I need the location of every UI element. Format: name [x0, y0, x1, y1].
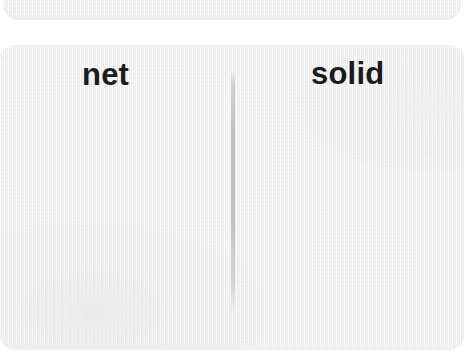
- scanned-label-card-image: net solid: [0, 0, 464, 358]
- label-text-net: net: [82, 59, 129, 90]
- main-label-card: [0, 45, 464, 348]
- top-partial-card: [4, 0, 460, 18]
- label-text-solid: solid: [311, 58, 384, 89]
